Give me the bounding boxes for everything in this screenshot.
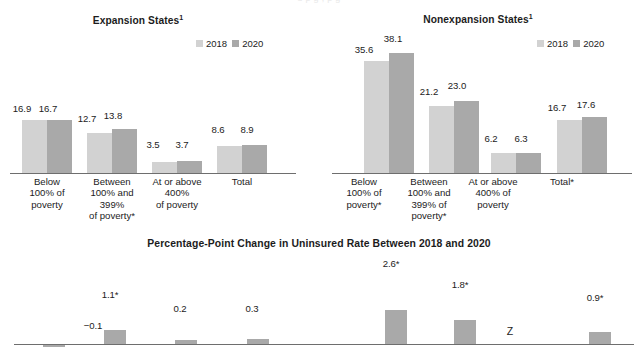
change-bar[interactable] <box>589 332 611 344</box>
category-label-line: Between <box>399 176 459 187</box>
category-label-line: Total <box>212 176 272 187</box>
legend-swatch-2020 <box>232 40 239 47</box>
category-label-line: Below <box>17 176 77 187</box>
stray-z-label: Z <box>493 325 527 337</box>
legend-swatch-2018 <box>196 40 203 47</box>
nonexpansion-panel-title-superscript: 1 <box>529 13 533 20</box>
expansion-legend: 2018 2020 <box>196 38 263 49</box>
category-label: Total* <box>532 176 592 187</box>
expansion-plot-area <box>0 60 300 173</box>
change-bar[interactable] <box>454 320 476 344</box>
bar-2018[interactable] <box>429 106 454 173</box>
bar-2018[interactable] <box>87 133 112 173</box>
category-label: At or above 400% of poverty <box>460 176 526 210</box>
category-label-line: 100% and <box>399 187 459 198</box>
nonexpansion-panel-title: Nonexpansion States1 <box>378 13 578 25</box>
bar-2018[interactable] <box>217 146 242 173</box>
legend-label-2020: 2020 <box>242 38 263 49</box>
category-label-line: 400% <box>144 187 210 198</box>
category-label-line: 100% of <box>17 187 77 198</box>
category-label-line: At or above <box>460 176 526 187</box>
bar-2018[interactable] <box>364 61 389 173</box>
legend-entry-2020[interactable]: 2020 <box>232 38 263 49</box>
category-label-line: Between <box>82 176 142 187</box>
expansion-panel-title-text: Expansion States <box>93 15 180 26</box>
category-label: At or above 400% of poverty <box>144 176 210 210</box>
expansion-panel-title-superscript: 1 <box>179 14 183 21</box>
category-label-line: of poverty <box>144 199 210 210</box>
nonexpansion-plot-area <box>330 45 630 173</box>
category-label: Between 100% and 399% of poverty* <box>82 176 142 222</box>
category-label: Between 100% and 399% of poverty* <box>399 176 459 222</box>
legend-entry-2018[interactable]: 2018 <box>196 38 227 49</box>
category-label-line: 100% and <box>82 187 142 198</box>
bar-2018[interactable] <box>152 162 177 173</box>
category-label: Total <box>212 176 272 187</box>
figure-root: u p g , p g Expansion States1 2018 <box>0 0 638 351</box>
category-label-line: poverty* <box>334 199 394 210</box>
nonexpansion-panel-title-text: Nonexpansion States <box>423 14 529 25</box>
bar-2020[interactable] <box>47 120 72 173</box>
category-label-line: poverty* <box>399 210 459 221</box>
bar-2018[interactable] <box>557 120 582 173</box>
change-axis-line <box>14 344 634 345</box>
change-bar[interactable] <box>104 330 126 344</box>
change-bar[interactable] <box>385 310 407 344</box>
category-label-line: 100% of <box>334 187 394 198</box>
category-label-line: At or above <box>144 176 210 187</box>
bar-2020[interactable] <box>389 53 414 173</box>
category-label-line: poverty <box>460 199 526 210</box>
expansion-panel-title: Expansion States1 <box>38 14 238 26</box>
bar-2020[interactable] <box>516 153 541 173</box>
category-label-line: 399% of <box>399 199 459 210</box>
category-label: Below 100% of poverty <box>17 176 77 210</box>
bar-2020[interactable] <box>112 129 137 173</box>
change-plot-area <box>0 266 638 344</box>
value-label-2020: 38.1 <box>379 33 407 44</box>
bar-2018[interactable] <box>22 120 47 173</box>
bar-2020[interactable] <box>177 161 202 173</box>
nonexpansion-axis-line <box>332 173 632 174</box>
category-label-line: poverty <box>17 199 77 210</box>
bar-2018[interactable] <box>491 153 516 173</box>
category-label-line: 400% of <box>460 187 526 198</box>
bar-2020[interactable] <box>582 117 607 173</box>
bar-2020[interactable] <box>454 101 479 173</box>
clipped-header-text: u p g , p g <box>0 0 638 3</box>
expansion-axis-line <box>10 173 296 174</box>
legend-label-2018: 2018 <box>206 38 227 49</box>
category-label: Below 100% of poverty* <box>334 176 394 210</box>
category-label-line: Total* <box>532 176 592 187</box>
category-label-line: Below <box>334 176 394 187</box>
change-panel-title: Percentage-Point Change in Uninsured Rat… <box>0 238 638 249</box>
bar-2020[interactable] <box>242 145 267 173</box>
category-label-line: 399% <box>82 199 142 210</box>
category-label-line: of poverty* <box>82 210 142 221</box>
